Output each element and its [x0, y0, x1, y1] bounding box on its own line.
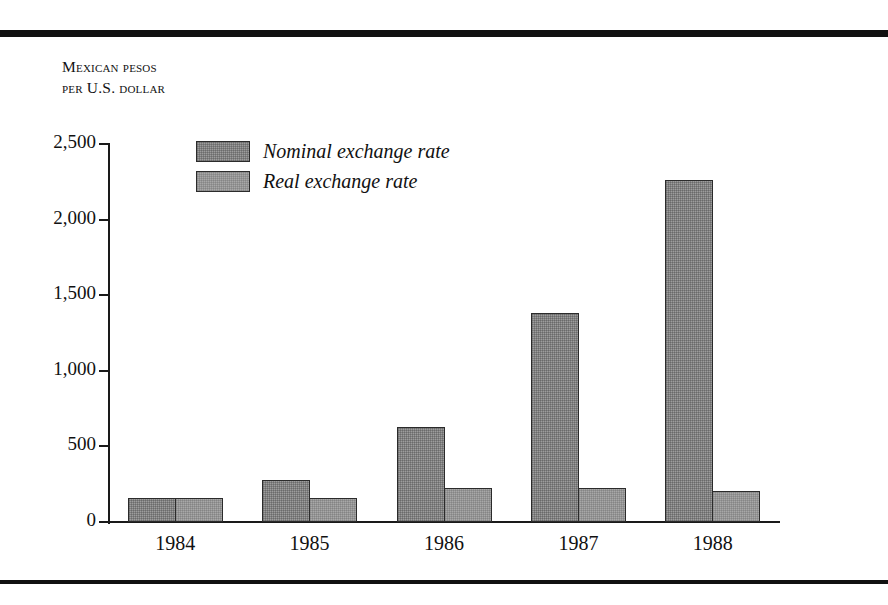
bar-real [712, 491, 760, 522]
bar-nominal [531, 313, 579, 522]
bar-group [262, 144, 358, 522]
bar-nominal [262, 480, 310, 522]
y-axis-tick-label: 1,000 [10, 358, 96, 380]
y-axis-title-line2: per U.S. dollar [62, 77, 362, 98]
bar-group [128, 144, 224, 522]
y-axis-tick-label: 2,500 [10, 131, 96, 153]
bar-group [665, 144, 761, 522]
y-axis-tick-label: 500 [10, 433, 96, 455]
y-axis-tick-label: 1,500 [10, 282, 96, 304]
bar-real [175, 498, 223, 522]
bar-real [444, 488, 492, 522]
bar-nominal [397, 427, 445, 522]
y-axis-tick-label: 2,000 [10, 207, 96, 229]
bar-real [309, 498, 357, 522]
bar-series-area [108, 144, 780, 522]
bar-nominal [128, 498, 176, 522]
bottom-divider-rule [0, 580, 888, 584]
bar-real [578, 488, 626, 522]
bar-group [397, 144, 493, 522]
y-axis-labels: 05001,0001,5002,0002,500 [0, 0, 96, 605]
bar-nominal [665, 180, 713, 522]
x-axis-tick-label: 1988 [633, 532, 793, 555]
figure-container: Mexican pesos per U.S. dollar Nominal ex… [0, 0, 888, 605]
y-axis-tick-label: 0 [10, 509, 96, 531]
top-divider-rule [0, 30, 888, 37]
bar-group [531, 144, 627, 522]
y-axis-title: Mexican pesos per U.S. dollar [62, 56, 362, 98]
